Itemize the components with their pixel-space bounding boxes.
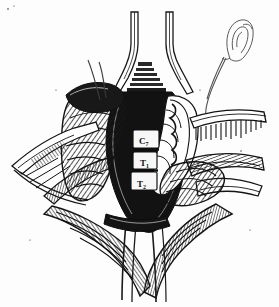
illustration-canvas: C7 T1 T2	[0, 0, 279, 307]
surgical-illustration-figure: C7 T1 T2	[0, 0, 279, 307]
